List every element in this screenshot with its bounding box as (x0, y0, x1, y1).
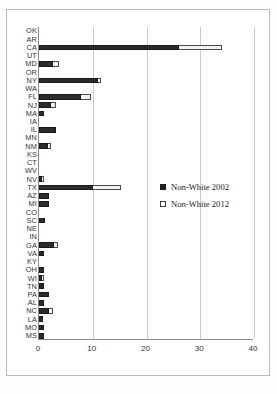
y-tick-label-ar: AR (27, 36, 37, 43)
legend-item-1: Non-White 2012 (160, 199, 229, 209)
bar-2002-wi (39, 275, 42, 281)
legend-label-1: Non-White 2012 (171, 199, 229, 209)
bar-group-wi (39, 274, 253, 282)
bar-2002-va (39, 251, 44, 257)
y-tick-label-ms: MS (26, 332, 37, 339)
y-tick-label-co: CO (26, 209, 37, 216)
y-tick-label-mi: MI (29, 200, 37, 207)
bar-2002-ca (39, 45, 179, 51)
legend-swatch-filled-square-icon (160, 184, 166, 190)
bar-group-nj (39, 101, 253, 109)
x-tick-label-0: 0 (36, 344, 40, 353)
bar-group-ny (39, 76, 253, 84)
bar-group-md (39, 60, 253, 68)
bar-group-ct (39, 159, 253, 167)
bar-group-va (39, 249, 253, 257)
x-axis-labels: 010203040 (0, 344, 277, 358)
y-tick-label-in: IN (29, 233, 37, 240)
y-tick-label-la: LA (28, 316, 37, 323)
bar-2002-pa (39, 292, 49, 298)
y-tick-label-md: MD (25, 60, 37, 67)
bar-group-or (39, 68, 253, 76)
bar-2002-fl (39, 94, 81, 100)
bar-group-la (39, 315, 253, 323)
legend-label-0: Non-White 2002 (171, 182, 229, 192)
x-tick-label-30: 30 (195, 344, 204, 353)
bar-group-mo (39, 324, 253, 332)
y-tick-label-ga: GA (26, 242, 37, 249)
y-tick-label-nm: NM (25, 143, 37, 150)
bar-group-ut (39, 52, 253, 60)
y-tick-label-wv: WV (25, 167, 37, 174)
bar-group-mn (39, 134, 253, 142)
bar-group-tn (39, 282, 253, 290)
bar-group-ok (39, 27, 253, 35)
bar-group-ma (39, 109, 253, 117)
x-tick-label-20: 20 (141, 344, 150, 353)
bar-group-ia (39, 118, 253, 126)
bar-group-nc (39, 307, 253, 315)
bar-group-ga (39, 241, 253, 249)
y-axis-labels: OKARCAUTMDORNYWAFLNJMAIAILMNNMKSCTWVNVTX… (6, 27, 37, 340)
bar-group-fl (39, 93, 253, 101)
bar-2002-sc (39, 218, 45, 224)
y-tick-label-wi: WI (28, 275, 37, 282)
bar-group-wa (39, 85, 253, 93)
bar-2002-tx (39, 185, 93, 191)
bar-2002-ma (39, 111, 44, 117)
y-tick-label-ok: OK (26, 27, 37, 34)
bar-2002-md (39, 61, 53, 67)
legend-swatch-open-square-icon (160, 201, 166, 207)
bar-group-nm (39, 142, 253, 150)
bar-group-ks (39, 151, 253, 159)
gridline-40 (254, 27, 255, 339)
bar-2002-al (39, 300, 44, 306)
y-tick-label-mn: MN (25, 134, 37, 141)
bar-group-in (39, 233, 253, 241)
y-tick-label-nv: NV (27, 176, 37, 183)
bar-group-il (39, 126, 253, 134)
bar-2002-mo (39, 325, 44, 331)
chart-figure: OKARCAUTMDORNYWAFLNJMAIAILMNNMKSCTWVNVTX… (0, 0, 277, 394)
bar-2002-nm (39, 143, 48, 149)
y-tick-label-fl: FL (28, 93, 37, 100)
bar-group-ar (39, 35, 253, 43)
bar-2002-nj (39, 102, 51, 108)
legend-item-0: Non-White 2002 (160, 182, 229, 192)
bar-group-wv (39, 167, 253, 175)
bar-group-ca (39, 43, 253, 51)
bar-2002-tn (39, 283, 44, 289)
bar-group-ne (39, 225, 253, 233)
bar-group-sc (39, 216, 253, 224)
bar-2002-ga (39, 242, 54, 248)
y-tick-label-oh: OH (26, 266, 37, 273)
bar-2002-az (39, 193, 49, 199)
bar-group-al (39, 299, 253, 307)
y-tick-label-nc: NC (26, 307, 37, 314)
bar-2002-nv (39, 176, 42, 182)
bar-group-ky (39, 258, 253, 266)
bar-2002-ny (39, 78, 98, 84)
bar-2002-ms (39, 333, 44, 339)
bar-2002-la (39, 316, 43, 322)
bar-2002-mi (39, 201, 49, 207)
y-tick-label-nj: NJ (28, 102, 37, 109)
bar-2002-il (39, 127, 56, 133)
bar-group-ms (39, 332, 253, 340)
bar-group-pa (39, 291, 253, 299)
bar-2002-nc (39, 308, 49, 314)
x-tick-label-10: 10 (87, 344, 96, 353)
x-tick-label-40: 40 (249, 344, 258, 353)
chart-legend: Non-White 2002 Non-White 2012 (160, 182, 229, 216)
bar-2002-oh (39, 267, 44, 273)
y-tick-label-or: OR (26, 69, 37, 76)
bar-group-oh (39, 266, 253, 274)
